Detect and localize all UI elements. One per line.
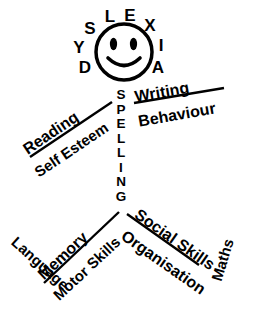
spelling-letter-i: I <box>111 161 131 176</box>
spelling-letter-l2: L <box>111 146 131 161</box>
spelling-letter-g: G <box>111 190 131 205</box>
label-spelling: S P E L L I N G <box>111 88 131 204</box>
spelling-letter-e: E <box>111 117 131 132</box>
spelling-letter-n: N <box>111 175 131 190</box>
dyslexia-figure-canvas: D Y S L E X I A Reading Self Esteem Writ… <box>0 0 255 313</box>
spelling-letter-l1: L <box>111 132 131 147</box>
spelling-letter-s: S <box>111 88 131 103</box>
spelling-letter-p: P <box>111 103 131 118</box>
